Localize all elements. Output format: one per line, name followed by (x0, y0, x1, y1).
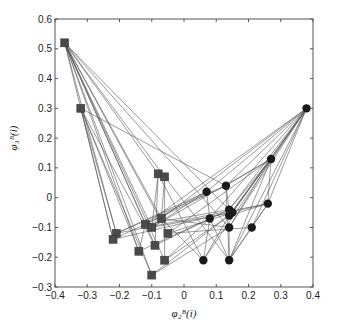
y-tick-label: −0.2 (32, 252, 52, 263)
x-tick-label: 0 (181, 290, 187, 301)
x-axis: −0.4−0.3−0.2−0.100.10.20.30.4 (45, 19, 320, 301)
y-tick-label: −0.3 (32, 282, 52, 293)
circle-point (222, 182, 230, 190)
y-tick-label: 0.4 (38, 73, 52, 84)
x-tick-label: −0.3 (77, 290, 97, 301)
square-point (61, 39, 69, 47)
edge-line (65, 43, 229, 228)
y-tick-label: 0.1 (38, 162, 52, 173)
square-point (151, 241, 159, 249)
edge-line (81, 108, 139, 251)
circle-point (225, 223, 233, 231)
edge-line (203, 216, 229, 261)
square-point (135, 247, 143, 255)
edge-line (252, 108, 307, 227)
x-tick-label: −0.1 (142, 290, 162, 301)
circle-point (199, 256, 207, 264)
y-tick-label: 0.6 (38, 14, 52, 25)
square-point (109, 235, 117, 243)
square-point (161, 173, 169, 181)
edge-line (113, 204, 268, 240)
y-tick-label: −0.1 (32, 222, 52, 233)
x-tick-label: 0.4 (306, 290, 320, 301)
y-tick-label: 0.3 (38, 103, 52, 114)
x-tick-label: 0.3 (274, 290, 288, 301)
circle-point (264, 199, 272, 207)
edge-line (210, 108, 307, 218)
edge-line (65, 43, 168, 234)
square-point (148, 271, 156, 279)
y-tick-label: 0.5 (38, 43, 52, 54)
square-point (157, 215, 165, 223)
square-point (161, 256, 169, 264)
y-tick-label: 0 (46, 192, 52, 203)
circle-point (248, 223, 256, 231)
circle-point (225, 211, 233, 219)
scatter-chart: −0.4−0.3−0.2−0.100.10.20.30.4 −0.3−0.2−0… (0, 0, 338, 334)
edge-line (155, 174, 158, 245)
circle-point (302, 104, 310, 112)
edge-line (81, 108, 113, 239)
square-point (148, 223, 156, 231)
y-tick-label: 0.2 (38, 133, 52, 144)
circle-point (202, 188, 210, 196)
edge-line (165, 219, 210, 261)
circle-point (225, 256, 233, 264)
square-point (77, 104, 85, 112)
x-axis-label: φ₂ᴮ(i) (172, 307, 197, 320)
square-point (164, 229, 172, 237)
y-axis-label: φ₃ᴮ(i) (7, 125, 20, 150)
edge-line (81, 108, 226, 185)
x-tick-label: −0.2 (110, 290, 130, 301)
edge-line (65, 43, 155, 245)
x-tick-label: 0.1 (209, 290, 223, 301)
edge-line (161, 108, 306, 218)
x-tick-label: 0.2 (242, 290, 256, 301)
circle-point (206, 214, 214, 222)
circle-point (267, 155, 275, 163)
edge-line (65, 43, 229, 210)
edge-line (229, 108, 306, 260)
edge-line (229, 159, 271, 227)
edge-line (226, 108, 307, 185)
